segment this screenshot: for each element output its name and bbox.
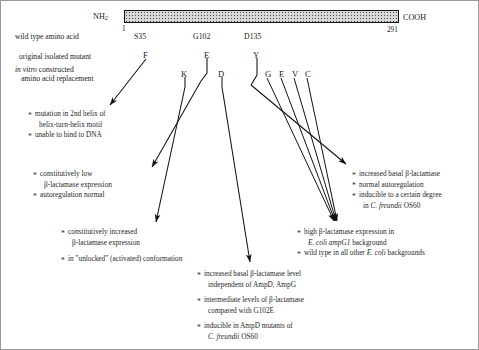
- phenotype-line: normal autoregulation: [352, 180, 442, 191]
- replacement-d135e: E: [279, 69, 284, 80]
- arrow-g102e: [152, 81, 201, 167]
- arrow-g102d: [222, 87, 250, 262]
- c-terminus-label: COOH: [403, 13, 426, 23]
- arrow-s35f: [110, 59, 146, 105]
- constructed-word: constructed: [37, 65, 74, 74]
- row-label-constructed-line2: amino acid replacement: [21, 74, 94, 83]
- row-label-wild-type: wild type amino acid: [15, 32, 79, 41]
- protein-bar: [124, 10, 399, 23]
- phenotype-line: constitutively increased: [61, 227, 182, 238]
- stalk-d135y: [251, 58, 257, 85]
- phenotype-block-g102k: constitutively increased β-lactamase exp…: [61, 227, 182, 265]
- replacement-g102d: D: [218, 69, 224, 80]
- arrow-d135e: [281, 78, 335, 221]
- phenotype-line: inducible to a certain degree: [352, 190, 442, 201]
- arrow-d135c: [307, 78, 337, 221]
- phenotype-line: β-lactamase expression: [61, 238, 182, 249]
- phenotype-line: in C. freundii OS60: [352, 201, 442, 212]
- in-vitro-italic: in vitro: [15, 65, 37, 74]
- phenotype-line: increased basal β-lactamase: [352, 169, 442, 180]
- phenotype-line: autoregulation normal: [33, 190, 112, 201]
- arrow-d135g: [267, 78, 334, 221]
- wild-type-residue-d135: D135: [244, 32, 261, 42]
- phenotype-line: increased basal β-lactamase level: [197, 269, 304, 280]
- phenotype-block-g102e: constitutively low β-lactamase expressio…: [33, 169, 112, 201]
- phenotype-block-d135-gevc: high β-lactamase expression in E. coli a…: [297, 227, 425, 259]
- replacement-d135v: V: [292, 69, 298, 80]
- phenotype-line: E. coli ampG1 background: [297, 238, 425, 249]
- original-mutant-g102e: E: [204, 50, 209, 61]
- phenotype-block-d135y: increased basal β-lactamase normal autor…: [352, 169, 442, 211]
- phenotype-line: C. freundii OS60: [197, 332, 304, 343]
- phenotype-line: wild type in all other E. coli backgroun…: [297, 248, 425, 259]
- residue-position-start: 1: [122, 25, 126, 34]
- original-mutant-d135y: Y: [253, 50, 259, 61]
- phenotype-block-s35f: mutation in 2nd helix of helix-turn-heli…: [28, 109, 106, 141]
- phenotype-block-g102d: increased basal β-lactamase level indepe…: [197, 269, 304, 342]
- stalk-g102e: [201, 58, 207, 81]
- residue-position-end: 291: [387, 26, 398, 35]
- phenotype-line: β-lactamase expression: [33, 180, 112, 191]
- wild-type-residue-s35: S35: [134, 32, 146, 42]
- phenotype-line: independent of AmpD, AmpG: [197, 280, 304, 291]
- arrow-d135y: [251, 85, 346, 164]
- row-label-original-mutant: original isolated mutant: [19, 52, 91, 61]
- phenotype-line: intermediate levels of β-lactamase: [197, 295, 304, 306]
- arrow-g102k: [156, 87, 185, 222]
- phenotype-line: high β-lactamase expression in: [297, 227, 425, 238]
- original-mutant-s35f: F: [143, 50, 148, 61]
- phenotype-line: in "unlocked" (activated) conformation: [61, 254, 182, 265]
- replacement-d135g: G: [265, 69, 271, 80]
- phenotype-line: compared with G102E: [197, 306, 304, 317]
- wild-type-residue-g102: G102: [193, 32, 210, 42]
- protein-bar-fill: [125, 11, 398, 22]
- arrow-d135v: [294, 78, 336, 221]
- phenotype-line: unable to bind to DNA: [28, 130, 106, 141]
- phenotype-line: inducible in AmpD mutants of: [197, 321, 304, 332]
- n-terminus-label: NH2: [93, 12, 108, 22]
- replacement-g102k: K: [181, 69, 187, 80]
- replacement-d135c: C: [305, 69, 311, 80]
- phenotype-line: helix-turn-helix motif: [28, 120, 106, 131]
- phenotype-line: constitutively low: [33, 169, 112, 180]
- figure-canvas: NH2 COOH 1 291 wild type amino acid orig…: [0, 0, 479, 350]
- phenotype-line: mutation in 2nd helix of: [28, 109, 106, 120]
